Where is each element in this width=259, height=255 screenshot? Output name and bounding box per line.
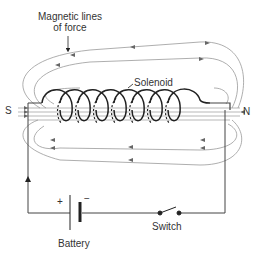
south-pole-label: S (5, 105, 12, 116)
solenoid-diagram (0, 0, 259, 255)
north-pole-label: N (243, 106, 250, 117)
battery-symbol (70, 195, 80, 230)
solenoid-label: Solenoid (134, 77, 173, 88)
switch-symbol (158, 207, 181, 215)
battery-label: Battery (58, 238, 90, 249)
magnetic-lines-text-1: Magnetic lines (34, 11, 106, 22)
switch-label: Switch (152, 221, 181, 232)
solenoid-pointer (128, 84, 133, 88)
field-lines-bottom (23, 120, 242, 165)
magnetic-lines-text-2: of force (34, 22, 106, 33)
current-arrow (25, 176, 31, 182)
battery-minus-label: − (84, 193, 90, 204)
battery-plus-label: + (57, 196, 63, 207)
magnetic-lines-label: Magnetic lines of force (34, 11, 106, 33)
